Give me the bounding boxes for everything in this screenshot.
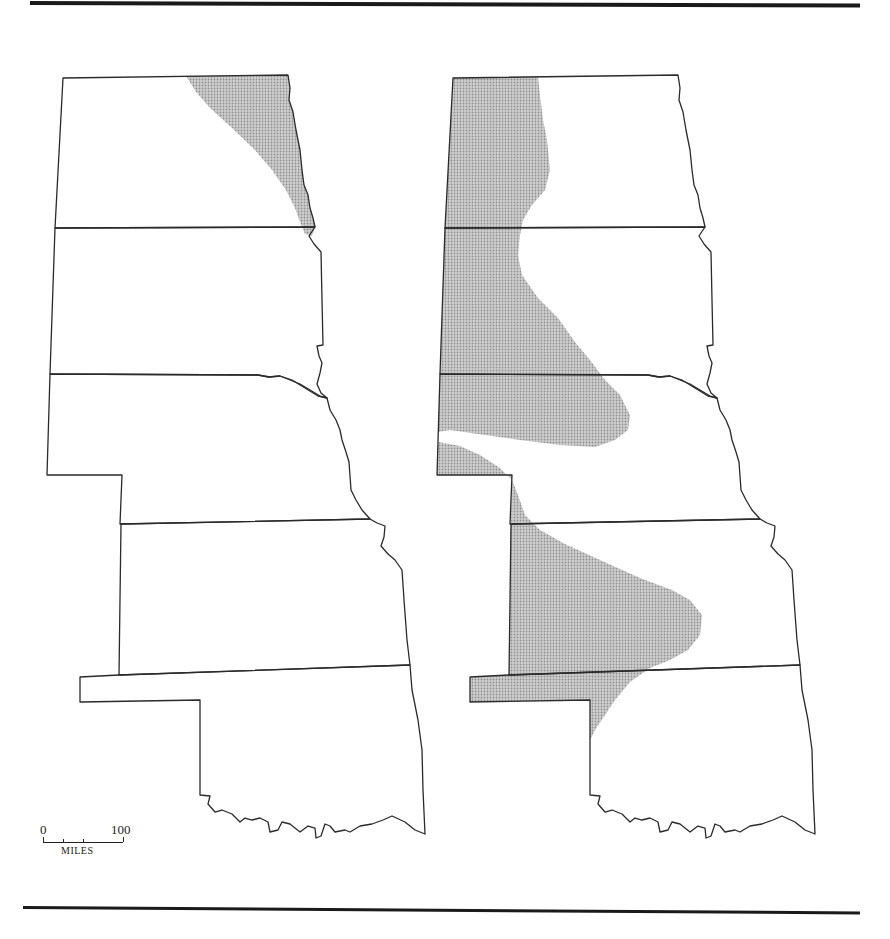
map-left [47,75,425,838]
scale-unit-label: MILES [61,845,94,856]
scale-bar: 0 100 MILES [33,822,133,872]
scale-max-label: 100 [111,822,131,838]
scale-line [43,842,123,843]
shaded-region-left [186,75,315,236]
scale-tick [123,837,124,842]
scale-tick [83,839,84,842]
shaded-region-right-north [438,77,630,447]
scale-tick [43,837,44,842]
scale-min-label: 0 [40,822,47,838]
scale-tick [63,839,64,842]
maps-figure [0,0,890,939]
map-right [437,75,815,838]
shaded-region-right-south [437,442,702,740]
